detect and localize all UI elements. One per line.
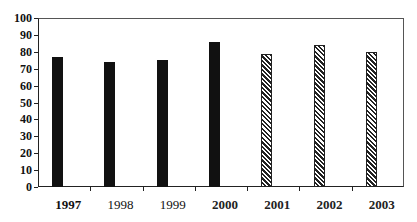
y-tick-label: 50 — [0, 97, 32, 109]
y-tick-label: 60 — [0, 80, 32, 92]
bar-1997 — [52, 57, 63, 187]
y-tick-mark — [34, 52, 38, 53]
y-tick-label: 90 — [0, 29, 32, 41]
y-tick-label: 0 — [0, 181, 32, 193]
y-tick-label: 70 — [0, 63, 32, 75]
bar-2003 — [366, 52, 377, 187]
x-tick-label: 1997 — [42, 197, 94, 213]
x-tick-mark — [90, 187, 91, 191]
x-tick-label: 2001 — [251, 197, 303, 213]
y-tick-mark — [34, 170, 38, 171]
bar-2000 — [209, 42, 220, 187]
y-tick-label: 20 — [0, 147, 32, 159]
bar-chart: 1009080706050403020100 19971998199920002… — [0, 0, 417, 222]
x-tick-label: 2003 — [356, 197, 408, 213]
x-tick-label: 2000 — [199, 197, 251, 213]
y-tick-label: 100 — [0, 12, 32, 24]
y-tick-mark — [34, 18, 38, 19]
x-tick-mark — [299, 187, 300, 191]
bar-2002 — [314, 45, 325, 187]
y-tick-mark — [34, 136, 38, 137]
y-tick-mark — [34, 69, 38, 70]
y-tick-mark — [34, 119, 38, 120]
y-tick-label: 30 — [0, 130, 32, 142]
x-tick-label: 2002 — [304, 197, 356, 213]
y-tick-mark — [34, 187, 38, 188]
y-tick-label: 80 — [0, 46, 32, 58]
plot-area — [38, 18, 404, 187]
bar-1998 — [104, 62, 115, 187]
y-tick-label: 40 — [0, 113, 32, 125]
x-tick-mark — [247, 187, 248, 191]
x-tick-mark — [143, 187, 144, 191]
y-tick-mark — [34, 103, 38, 104]
x-tick-mark — [352, 187, 353, 191]
x-tick-label: 1999 — [147, 197, 199, 213]
y-tick-mark — [34, 153, 38, 154]
y-tick-mark — [34, 35, 38, 36]
x-tick-mark — [195, 187, 196, 191]
y-tick-label: 10 — [0, 164, 32, 176]
bar-1999 — [157, 60, 168, 187]
bar-2001 — [261, 54, 272, 188]
y-tick-mark — [34, 86, 38, 87]
x-tick-label: 1998 — [94, 197, 146, 213]
